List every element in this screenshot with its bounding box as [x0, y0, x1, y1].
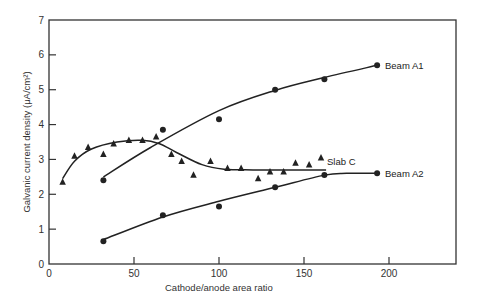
point-beam-a1: [100, 177, 106, 183]
y-tick-label: 6: [38, 49, 44, 60]
point-beam-a2: [160, 212, 166, 218]
point-slab-c: [318, 154, 325, 161]
point-beam-a1: [160, 127, 166, 133]
point-slab-c: [178, 157, 185, 164]
x-tick-label: 150: [296, 268, 313, 279]
plot-frame: [49, 20, 456, 264]
curve-beam-a2: [103, 173, 377, 239]
point-slab-c: [292, 159, 299, 166]
x-tick-label: 100: [211, 268, 228, 279]
point-slab-c: [85, 143, 92, 150]
point-beam-a1: [321, 76, 327, 82]
y-tick-label: 2: [38, 189, 44, 200]
y-tick-label: 5: [38, 84, 44, 95]
curve-slab-c: [63, 140, 327, 178]
point-slab-c: [153, 133, 160, 140]
x-tick-label: 0: [46, 268, 52, 279]
series-label-slab-c: Slab C: [327, 156, 356, 167]
point-slab-c: [280, 168, 287, 175]
x-axis-title: Cathode/anode area ratio: [165, 282, 273, 293]
y-axis-ticks: 01234567: [38, 15, 56, 270]
y-tick-label: 0: [38, 259, 44, 270]
point-beam-a2: [321, 172, 327, 178]
y-tick-label: 4: [38, 119, 44, 130]
series-label-beam-a1: Beam A1: [385, 60, 424, 71]
point-slab-c: [190, 171, 197, 178]
y-tick-label: 1: [38, 224, 44, 235]
series-label-beam-a2: Beam A2: [385, 168, 424, 179]
point-beam-a2: [374, 170, 380, 176]
point-beam-a1: [374, 62, 380, 68]
x-tick-label: 50: [128, 268, 140, 279]
data-markers: [59, 62, 380, 244]
point-slab-c: [100, 150, 107, 157]
point-slab-c: [306, 161, 313, 168]
point-beam-a2: [100, 238, 106, 244]
y-tick-label: 7: [38, 15, 44, 26]
galvanic-current-chart: 01234567 050100150200 Beam A1 Slab C Bea…: [0, 0, 479, 304]
point-slab-c: [267, 168, 274, 175]
point-beam-a1: [272, 87, 278, 93]
point-slab-c: [224, 164, 231, 171]
point-slab-c: [207, 157, 214, 164]
point-beam-a2: [272, 184, 278, 190]
fit-curves: [63, 65, 378, 239]
y-tick-label: 3: [38, 154, 44, 165]
point-beam-a1: [216, 116, 222, 122]
x-axis-ticks: 050100150200: [46, 257, 398, 279]
x-tick-label: 200: [381, 268, 398, 279]
point-beam-a2: [216, 203, 222, 209]
y-axis-title: Galvanic current density (μA/cm²): [21, 71, 32, 212]
point-slab-c: [238, 164, 245, 171]
point-slab-c: [255, 175, 262, 182]
point-slab-c: [71, 152, 78, 159]
point-slab-c: [59, 178, 66, 185]
